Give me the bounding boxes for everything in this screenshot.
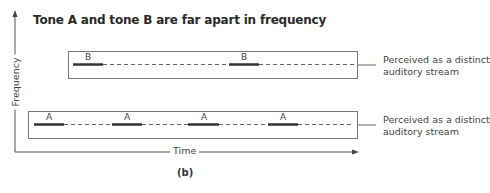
tone-b-label: B xyxy=(85,52,91,62)
tone-a-label: A xyxy=(280,112,286,122)
stream-b-annotation-line1: Perceived as a distinct xyxy=(383,54,490,66)
tone-b-label: B xyxy=(241,52,247,62)
tone-a-label: A xyxy=(46,112,52,122)
stream-a-annotation-line2: auditory stream xyxy=(383,126,490,138)
stream-a-annotation: Perceived as a distinct auditory stream xyxy=(383,114,490,138)
figure-caption: (b) xyxy=(177,167,193,178)
stream-a-annotation-line1: Perceived as a distinct xyxy=(383,114,490,126)
x-axis-arrow-icon xyxy=(352,150,359,155)
y-axis-arrow-icon xyxy=(13,10,18,17)
tone-a-label: A xyxy=(124,112,130,122)
x-axis-label: Time xyxy=(170,145,199,156)
stream-b-annotation-line2: auditory stream xyxy=(383,66,490,78)
stream-b-annotation: Perceived as a distinct auditory stream xyxy=(383,54,490,78)
diagram-title: Tone A and tone B are far apart in frequ… xyxy=(33,13,326,27)
y-axis-label: Frequency xyxy=(10,54,21,109)
tone-a-label: A xyxy=(201,112,207,122)
